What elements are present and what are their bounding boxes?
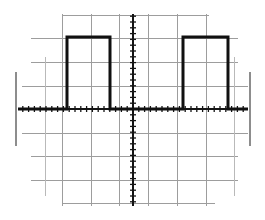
oscilloscope-display: Square wave on oscilloscope graticule — [0, 0, 265, 220]
graticule-canvas — [0, 0, 265, 220]
